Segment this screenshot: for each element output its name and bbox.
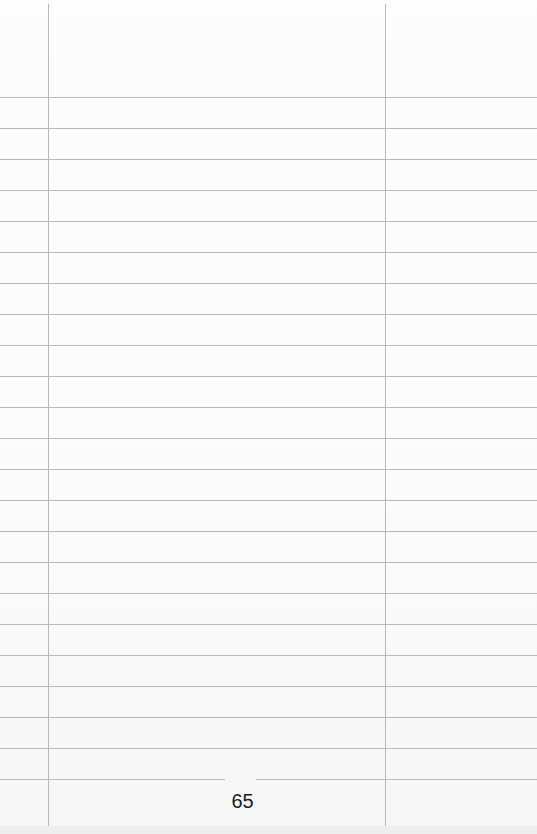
- ruled-line: [0, 345, 537, 346]
- ruled-notebook-page: 65: [0, 0, 537, 834]
- ruled-line: [0, 593, 537, 594]
- ruled-line: [0, 190, 537, 191]
- ruled-line: [0, 407, 537, 408]
- ruled-line: [0, 531, 537, 532]
- page-bottom-edge: [0, 826, 537, 834]
- ruled-line: [0, 97, 537, 98]
- ruled-line: [0, 624, 537, 625]
- ruled-line: [0, 159, 537, 160]
- ruled-line: [0, 252, 537, 253]
- ruled-line: [0, 717, 537, 718]
- left-margin-line: [48, 4, 49, 826]
- ruled-line: [256, 779, 537, 780]
- ruled-line: [0, 469, 537, 470]
- right-column-line: [385, 4, 386, 826]
- ruled-line: [0, 500, 537, 501]
- ruled-line: [0, 376, 537, 377]
- ruled-line: [0, 438, 537, 439]
- ruled-line: [0, 779, 225, 780]
- ruled-line: [0, 283, 537, 284]
- page-number: 65: [0, 790, 485, 812]
- ruled-line: [0, 314, 537, 315]
- ruled-line: [0, 562, 537, 563]
- ruled-line: [0, 655, 537, 656]
- ruled-line: [0, 221, 537, 222]
- ruled-line: [0, 748, 537, 749]
- ruled-line: [0, 686, 537, 687]
- ruled-line: [0, 128, 537, 129]
